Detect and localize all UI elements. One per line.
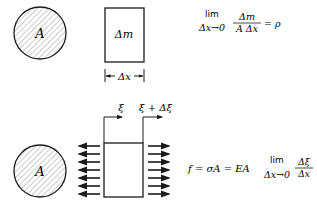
xi-plus-delta-xi-label: ξ + Δξ: [139, 102, 172, 113]
bottom-area-label: A: [34, 164, 44, 179]
formula1-denominator: A Δx: [235, 23, 259, 34]
displacement-marker-left: [104, 117, 122, 143]
formula2-lhs: f = σA = EA: [187, 163, 250, 174]
top-mass-label: Δm: [114, 28, 133, 41]
left-traction-arrows: [79, 146, 100, 194]
formula1-lim-sub: Δx→0: [198, 22, 225, 33]
formula1-lim: lim: [205, 9, 219, 19]
formula2-numerator: Δξ: [297, 157, 310, 167]
top-area-label: A: [34, 26, 44, 41]
dimension-label: Δx: [117, 71, 131, 82]
bottom-strain-element: [104, 143, 143, 197]
xi-label: ξ: [118, 102, 124, 113]
formula1-numerator: Δm: [238, 11, 255, 22]
formula2-lim-sub: Δx→0: [263, 169, 290, 180]
displacement-marker-right: [143, 117, 162, 143]
formula2-lim: lim: [270, 155, 284, 165]
formula2-denominator: Δx: [297, 169, 310, 179]
right-traction-arrows: [148, 146, 169, 194]
formula1-rhs: = ρ: [264, 18, 281, 29]
diagram-canvas: A Δm Δx lim Δx→0 Δm A Δx = ρ A ξ ξ + Δξ …: [0, 0, 317, 202]
